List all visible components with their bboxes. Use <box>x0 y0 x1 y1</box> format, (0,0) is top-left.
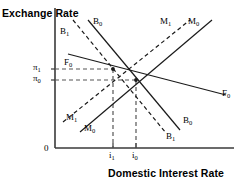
y-tick-label-pi0: π0 <box>33 73 41 83</box>
x-axis-title: Domestic Interest Rate <box>108 168 224 180</box>
curve-label-f0-left: F0 <box>64 57 72 67</box>
curve-label-m0-upper: M0 <box>188 16 199 26</box>
x-tick-label-i0: i0 <box>132 150 138 160</box>
y-tick-label-pi1: π1 <box>33 62 41 72</box>
origin-label: 0 <box>44 143 49 153</box>
exchange-rate-interest-rate-diagram: Exchange Rate Domestic Interest Rate 0 π… <box>0 0 252 184</box>
curve-label-m1-lower: M1 <box>66 112 77 122</box>
equilibrium-point-0 <box>134 78 138 82</box>
curve-label-m1-upper: M1 <box>160 16 171 26</box>
curve-label-b0-lower: B0 <box>183 115 192 125</box>
curve-f0 <box>68 54 226 95</box>
chart-canvas <box>0 0 252 184</box>
curve-label-b0-upper: B0 <box>93 16 102 26</box>
equilibrium-point-1 <box>111 67 115 71</box>
curve-label-f0-right: F0 <box>222 88 230 98</box>
y-axis-title: Exchange Rate <box>2 8 70 20</box>
curve-m1 <box>63 20 190 122</box>
x-tick-label-i1: i1 <box>109 150 115 160</box>
curve-label-b1-upper: B1 <box>60 26 69 36</box>
curve-label-b1-lower: B1 <box>166 131 175 141</box>
curve-label-m0-lower: M0 <box>84 123 95 133</box>
